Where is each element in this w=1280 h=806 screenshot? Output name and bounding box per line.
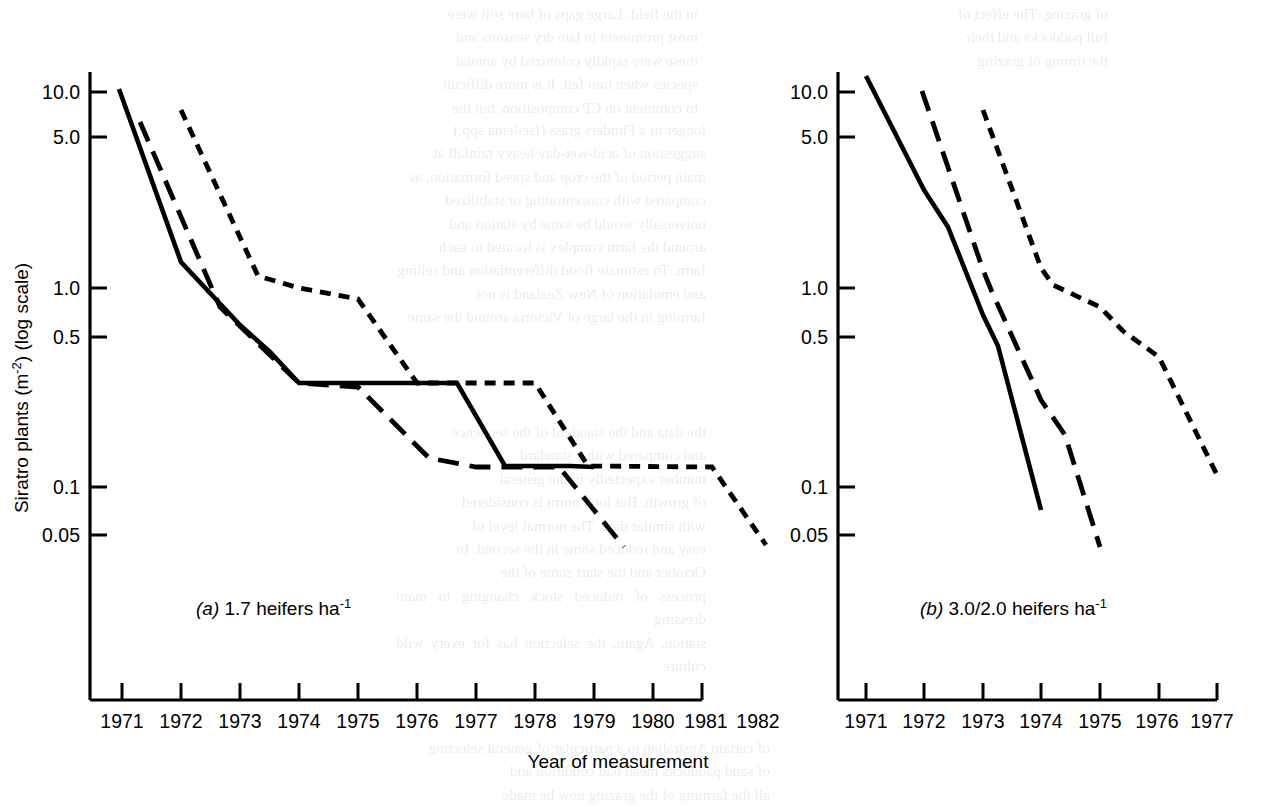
panel-a-xtick-label-1981: 1981 bbox=[684, 710, 727, 732]
panel-b-x-ticks bbox=[866, 683, 1217, 700]
panel-a-xtick-label-1979: 1979 bbox=[572, 710, 615, 732]
panel-a-label-main: 1.7 heifers ha bbox=[219, 598, 340, 619]
panel-a-ytick-label-0-05: 0.05 bbox=[42, 524, 80, 546]
panel-b-xtick-label-1973: 1973 bbox=[961, 710, 1004, 732]
y-axis-title: Siratro plants (m-2) (log scale) bbox=[9, 263, 32, 513]
panel-a-ytick-label-0-1: 0.1 bbox=[53, 476, 80, 498]
panel-a-xtick-label-1974: 1974 bbox=[277, 710, 321, 732]
panel-a-xtick-label-1973: 1973 bbox=[218, 710, 261, 732]
panel-a: 10.0 5.0 1.0 0.5 0.1 0.05 1971 bbox=[42, 72, 780, 732]
panel-a-ytick-label-1: 1.0 bbox=[53, 277, 80, 299]
y-axis-title-main: Siratro plants (m bbox=[11, 374, 32, 513]
panel-b-ytick-label-0-5: 0.5 bbox=[801, 326, 828, 348]
panel-b-xtick-label-1974: 1974 bbox=[1019, 710, 1063, 732]
panel-b-ytick-label-1: 1.0 bbox=[801, 277, 828, 299]
x-axis-title: Year of measurement bbox=[528, 751, 710, 772]
panel-b-xtick-label-1972: 1972 bbox=[902, 710, 945, 732]
panel-a-xtick-label-1972: 1972 bbox=[159, 710, 202, 732]
panel-a-xtick-label-1971: 1971 bbox=[100, 710, 143, 732]
panel-b-ytick-label-0-05: 0.05 bbox=[790, 524, 828, 546]
panel-a-label: (a) 1.7 heifers ha-1 bbox=[196, 596, 351, 619]
y-axis-title-tail: ) (log scale) bbox=[11, 263, 32, 362]
panel-a-xtick-label-1980: 1980 bbox=[631, 710, 675, 732]
panel-b-ytick-label-5: 5.0 bbox=[801, 126, 828, 148]
panel-b-series-solid bbox=[866, 76, 1041, 510]
panel-a-xtick-label-1977: 1977 bbox=[454, 710, 497, 732]
panel-b: 10.0 5.0 1.0 0.5 0.1 0.05 1971 1972 1973… bbox=[790, 72, 1234, 732]
y-axis-title-sup: -2 bbox=[9, 362, 24, 374]
panel-a-label-sup: -1 bbox=[340, 596, 352, 611]
panel-b-xtick-label-1971: 1971 bbox=[844, 710, 887, 732]
panel-b-xtick-label-1977: 1977 bbox=[1190, 710, 1233, 732]
panel-b-label-main: 3.0/2.0 heifers ha bbox=[943, 598, 1096, 619]
panel-a-x-ticks bbox=[122, 683, 702, 700]
panel-a-xtick-label-1982: 1982 bbox=[736, 710, 779, 732]
panel-b-series-long-dash bbox=[922, 91, 1100, 547]
panel-b-ytick-label-0-1: 0.1 bbox=[801, 476, 828, 498]
panel-a-y-ticks bbox=[90, 92, 107, 535]
panel-b-y-ticks bbox=[838, 92, 855, 535]
panel-a-ytick-label-0-5: 0.5 bbox=[53, 326, 80, 348]
panel-b-xtick-label-1976: 1976 bbox=[1135, 710, 1178, 732]
panel-b-label-sup: -1 bbox=[1095, 596, 1107, 611]
panel-b-label-prefix: (b) bbox=[920, 598, 943, 619]
panel-a-xtick-label-1978: 1978 bbox=[513, 710, 556, 732]
panel-a-xtick-label-1976: 1976 bbox=[395, 710, 438, 732]
panel-a-xtick-label-1975: 1975 bbox=[336, 710, 380, 732]
panel-a-ytick-label-5: 5.0 bbox=[53, 126, 80, 148]
panel-a-series-short-dash bbox=[181, 110, 766, 545]
panel-a-ytick-label-10: 10.0 bbox=[42, 81, 80, 103]
panel-b-xtick-label-1975: 1975 bbox=[1078, 710, 1122, 732]
panel-a-label-prefix: (a) bbox=[196, 598, 219, 619]
panel-b-label: (b) 3.0/2.0 heifers ha-1 bbox=[920, 596, 1107, 619]
panel-b-ytick-label-10: 10.0 bbox=[790, 81, 828, 103]
panel-a-series-solid bbox=[119, 89, 594, 467]
